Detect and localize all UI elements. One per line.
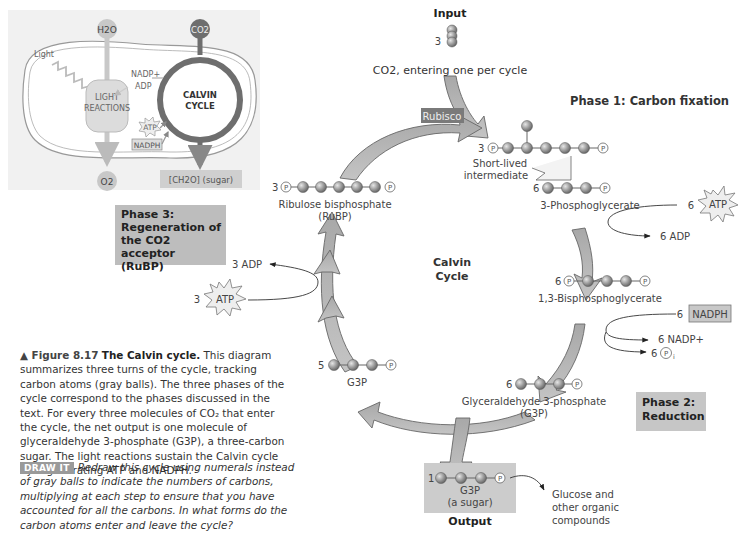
svg-text:P: P — [664, 350, 668, 358]
svg-text:(RuBP): (RuBP) — [318, 211, 352, 222]
svg-text:Rubisco: Rubisco — [423, 111, 462, 122]
figure-body: This diagram summarizes three turns of t… — [20, 349, 284, 476]
svg-text:P: P — [567, 278, 571, 286]
svg-text:3 ADP: 3 ADP — [232, 259, 262, 270]
svg-text:6: 6 — [533, 183, 539, 194]
figure-label: ▲ Figure 8.17 — [20, 349, 99, 361]
figure-title: The Calvin cycle. — [102, 349, 200, 361]
svg-text:6 NADP+: 6 NADP+ — [658, 334, 704, 345]
svg-text:ATP: ATP — [216, 294, 234, 305]
phase2-line2: Reduction — [642, 410, 706, 424]
svg-text:i: i — [673, 353, 675, 361]
svg-text:ATP: ATP — [143, 123, 157, 132]
co2-input-balls — [447, 25, 457, 47]
svg-text:P: P — [389, 362, 393, 370]
svg-text:G3P: G3P — [347, 377, 367, 388]
phase3-box: Phase 3: Regeneration of the CO2 accepto… — [115, 205, 226, 265]
svg-text:Light: Light — [34, 50, 54, 59]
svg-text:Glyceraldehyde 3-phosphate: Glyceraldehyde 3-phosphate — [462, 396, 606, 407]
svg-text:P: P — [575, 381, 579, 389]
draw-it-exercise: DRAW ITRedraw this cycle using numerals … — [20, 460, 296, 532]
svg-text:intermediate: intermediate — [464, 170, 528, 181]
phase3-line4: (RuBP) — [121, 260, 226, 273]
svg-text:3-Phosphoglycerate: 3-Phosphoglycerate — [540, 200, 639, 211]
svg-text:REACTIONS: REACTIONS — [84, 104, 130, 113]
svg-text:NADPH: NADPH — [134, 141, 161, 150]
svg-text:6 ADP: 6 ADP — [660, 231, 690, 242]
svg-text:P: P — [388, 184, 392, 192]
svg-text:CALVIN: CALVIN — [183, 90, 217, 100]
svg-text:1,3-Bisphosphoglycerate: 1,3-Bisphosphoglycerate — [538, 293, 662, 304]
svg-text:P: P — [643, 278, 647, 286]
svg-text:3: 3 — [272, 182, 278, 193]
svg-text:Short-lived: Short-lived — [473, 158, 527, 169]
svg-text:P: P — [603, 185, 607, 193]
svg-text:Calvin: Calvin — [433, 256, 471, 269]
svg-text:[CH2O] (sugar): [CH2O] (sugar) — [169, 175, 233, 185]
svg-text:CO2, entering one per cycle: CO2, entering one per cycle — [373, 64, 528, 77]
svg-text:Cycle: Cycle — [436, 270, 469, 283]
svg-text:G3P: G3P — [460, 485, 480, 496]
svg-text:(a sugar): (a sugar) — [447, 497, 492, 508]
svg-text:1: 1 — [428, 473, 434, 484]
svg-text:Ribulose bisphosphate: Ribulose bisphosphate — [278, 199, 391, 210]
phase3-line2: Regeneration of — [121, 221, 226, 234]
phase2-line1: Phase 2: — [642, 396, 706, 410]
draw-it-tag: DRAW IT — [20, 462, 74, 474]
svg-text:P: P — [498, 475, 502, 483]
svg-text:Output: Output — [448, 515, 491, 528]
svg-text:(G3P): (G3P) — [520, 408, 548, 419]
svg-text:6: 6 — [555, 276, 561, 287]
rubp-molecule: P P — [281, 182, 395, 193]
3-phosphoglycerate-molecule: P — [543, 183, 611, 194]
svg-text:O2: O2 — [101, 177, 114, 187]
svg-text:P: P — [284, 184, 288, 192]
svg-text:Input: Input — [434, 7, 467, 20]
phase3-line3: the CO2 acceptor — [121, 234, 226, 260]
svg-text:P: P — [601, 145, 605, 153]
phase2-box: Phase 2: Reduction — [636, 392, 706, 431]
svg-text:compounds: compounds — [552, 515, 610, 526]
svg-text:6: 6 — [651, 348, 657, 359]
svg-text:CYCLE: CYCLE — [185, 101, 215, 111]
svg-text:5: 5 — [318, 360, 324, 371]
svg-text:Glucose and: Glucose and — [552, 489, 614, 500]
svg-text:H2O: H2O — [97, 25, 117, 35]
svg-text:6: 6 — [688, 200, 694, 211]
svg-text:6: 6 — [506, 379, 512, 390]
short-lived-intermediate: P P — [488, 121, 608, 154]
svg-text:6: 6 — [677, 309, 683, 320]
svg-text:3: 3 — [435, 36, 441, 47]
svg-text:P: P — [491, 145, 495, 153]
chloroplast-inset: H2O O2 Light LIGHT REACTIONS CO2 CALVIN … — [8, 10, 260, 191]
phase3-line1: Phase 3: — [121, 208, 226, 221]
svg-text:other organic: other organic — [552, 502, 619, 513]
svg-text:CO2: CO2 — [191, 25, 209, 35]
svg-text:3: 3 — [194, 294, 200, 305]
svg-text:NADPH: NADPH — [692, 309, 728, 320]
svg-text:ATP: ATP — [709, 199, 727, 210]
svg-text:ADP: ADP — [135, 82, 152, 91]
calvin-cycle-ring — [160, 60, 240, 140]
phase1-label: Phase 1: Carbon fixation — [570, 94, 729, 108]
svg-text:3: 3 — [478, 143, 484, 154]
figure-caption: ▲ Figure 8.17 The Calvin cycle. This dia… — [20, 348, 292, 478]
